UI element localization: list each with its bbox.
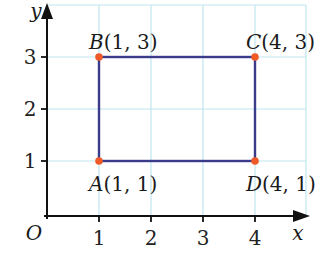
label-d-name: D	[245, 172, 262, 196]
coordinate-plane: 1 2 3 4 1 2 3 O x y B(1, 3) C(4, 3) A(1,…	[0, 0, 334, 257]
x-tick-1: 1	[93, 226, 106, 250]
label-b: B(1, 3)	[88, 30, 157, 54]
y-tick-3: 3	[24, 45, 37, 69]
label-d-coords: (4, 1)	[262, 172, 316, 196]
x-axis-label: x	[292, 221, 303, 245]
x-tick-3: 3	[197, 226, 210, 250]
y-axis-label: y	[29, 0, 42, 23]
point-d	[251, 157, 259, 165]
point-a	[95, 157, 103, 165]
origin-label: O	[26, 221, 42, 245]
x-tick-4: 4	[249, 226, 262, 250]
x-tick-2: 2	[145, 226, 158, 250]
point-c	[251, 53, 259, 61]
y-tick-2: 2	[24, 97, 37, 121]
label-a-coords: (1, 1)	[103, 172, 157, 196]
label-c-name: C	[246, 30, 261, 54]
label-d: D(4, 1)	[245, 172, 316, 196]
tick-marks	[41, 57, 255, 222]
label-b-name: B	[88, 30, 104, 54]
label-c-coords: (4, 3)	[261, 30, 315, 54]
label-a-name: A	[87, 172, 103, 196]
point-b	[95, 53, 103, 61]
label-c: C(4, 3)	[246, 30, 315, 54]
label-a: A(1, 1)	[87, 172, 157, 196]
y-tick-1: 1	[24, 149, 37, 173]
label-b-coords: (1, 3)	[104, 30, 158, 54]
